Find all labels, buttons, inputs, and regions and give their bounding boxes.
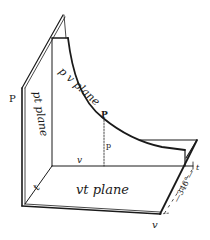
- vt-plane-label: vt plane: [76, 182, 129, 197]
- pt-plane-top-vertical: [64, 15, 66, 38]
- v-axis-label: v: [77, 155, 82, 165]
- pressure-p-label: p: [106, 141, 111, 150]
- pv-plane-label: p v plane: [56, 65, 103, 109]
- p-axis-label: P: [9, 93, 16, 104]
- pt-plane-label: pt plane: [30, 90, 51, 138]
- vt-plane-front-edge: [22, 206, 160, 214]
- point-p-label: P: [101, 110, 108, 120]
- vt-plane-left-diagonal: [25, 166, 52, 204]
- temperature-span-label: —346°—: [172, 169, 197, 204]
- thermodynamic-surface-diagram: P pt plane p v plane P p v t vt plane —3…: [0, 0, 210, 240]
- t-axis-label: t: [31, 182, 43, 192]
- pt-plane-top-edge: [22, 15, 63, 88]
- v-corner-label: v: [152, 219, 158, 230]
- t-marker-label: t: [196, 163, 200, 172]
